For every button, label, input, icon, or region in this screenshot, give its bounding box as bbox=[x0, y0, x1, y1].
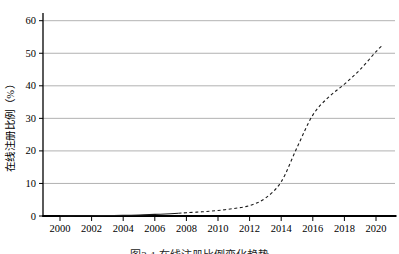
y-tick-label: 30 bbox=[26, 113, 37, 124]
figure-caption: 图3-1 在线注册比例变化趋势 bbox=[0, 246, 399, 254]
x-tick-label: 2020 bbox=[366, 223, 387, 234]
chart-figure: 0102030405060200020022004200620082010201… bbox=[0, 0, 399, 254]
x-tick-label: 2004 bbox=[113, 223, 135, 234]
x-tick-label: 2002 bbox=[81, 223, 102, 234]
y-axis-label: 在线注册比例（%） bbox=[2, 66, 17, 186]
x-tick-label: 2010 bbox=[208, 223, 229, 234]
x-tick-label: 2014 bbox=[271, 223, 293, 234]
y-tick-label: 0 bbox=[31, 211, 36, 222]
x-tick-label: 2006 bbox=[144, 223, 165, 234]
y-tick-label: 40 bbox=[26, 80, 37, 91]
x-tick-label: 2016 bbox=[302, 223, 323, 234]
y-tick-label: 50 bbox=[26, 48, 37, 59]
y-tick-label: 20 bbox=[26, 145, 37, 156]
x-tick-label: 2008 bbox=[176, 223, 197, 234]
y-tick-label: 60 bbox=[26, 15, 37, 26]
series-line-dashed-segment bbox=[179, 45, 383, 213]
x-tick-label: 2012 bbox=[239, 223, 260, 234]
y-tick-label: 10 bbox=[26, 178, 37, 189]
line-chart: 0102030405060200020022004200620082010201… bbox=[0, 0, 399, 254]
x-tick-label: 2000 bbox=[50, 223, 71, 234]
x-tick-label: 2018 bbox=[334, 223, 355, 234]
